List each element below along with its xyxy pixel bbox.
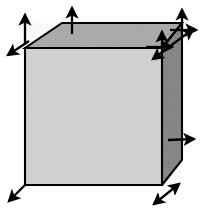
cube-front-face <box>25 48 162 185</box>
cube-diagram-svg <box>0 0 205 214</box>
arrow-right-face-middle-right <box>168 139 194 140</box>
cube-figure <box>0 0 205 214</box>
